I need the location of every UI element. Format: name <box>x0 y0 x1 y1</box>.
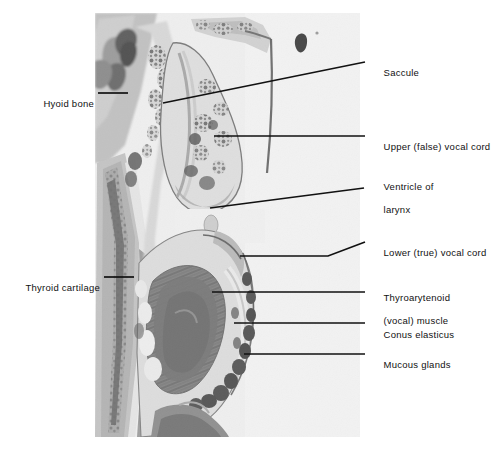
larynx-micrograph <box>95 13 360 437</box>
label-conus-elasticus-text: Conus elasticus <box>384 329 455 340</box>
label-ventricle-of-larynx-line2: larynx <box>384 204 411 215</box>
label-ventricle-of-larynx-line1: Ventricle of <box>384 181 434 192</box>
label-hyoid-bone-text: Hyoid bone <box>43 98 94 109</box>
label-thyroid-cartilage: Thyroid cartilage <box>4 270 100 305</box>
label-saccule: Saccule <box>372 55 419 90</box>
label-saccule-text: Saccule <box>384 67 420 78</box>
label-mucous-glands-text: Mucous glands <box>384 359 451 370</box>
label-ventricle-of-larynx: Ventricle of larynx <box>372 169 434 227</box>
figure-canvas: Hyoid bone Thyroid cartilage Saccule Upp… <box>0 0 502 452</box>
label-lower-true-vocal-cord-text: Lower (true) vocal cord <box>384 247 487 258</box>
label-hyoid-bone: Hyoid bone <box>4 86 94 121</box>
label-thyroarytenoid-muscle-line1: Thyroarytenoid <box>383 292 450 303</box>
label-thyroid-cartilage-text: Thyroid cartilage <box>26 282 100 293</box>
label-upper-false-vocal-cord-text: Upper (false) vocal cord <box>384 141 491 152</box>
label-lower-true-vocal-cord: Lower (true) vocal cord <box>372 235 486 270</box>
label-mucous-glands: Mucous glands <box>372 347 451 382</box>
label-upper-false-vocal-cord: Upper (false) vocal cord <box>372 129 490 164</box>
